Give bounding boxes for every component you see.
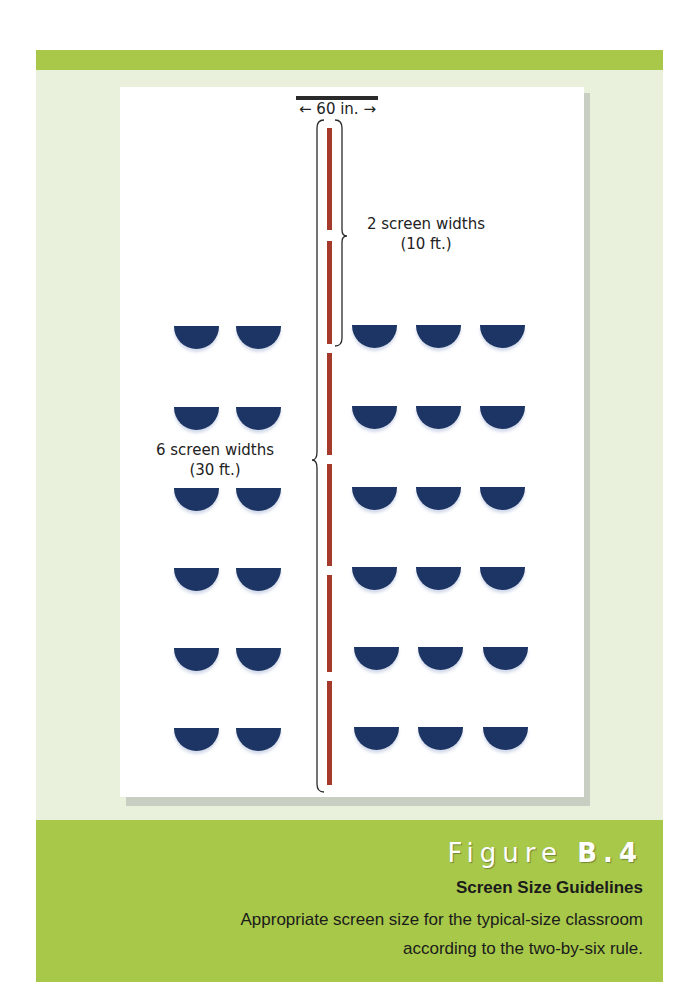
far-bracket — [312, 120, 324, 792]
near-bracket — [335, 120, 347, 346]
figure-number: B.4 — [577, 838, 643, 868]
figure-description: Appropriate screen size for the typical-… — [223, 905, 643, 963]
near-label-line1: 2 screen widths — [356, 214, 496, 234]
far-label-line2: (30 ft.) — [140, 460, 290, 480]
far-label-line1: 6 screen widths — [140, 440, 290, 460]
near-distance-label: 2 screen widths (10 ft.) — [356, 214, 496, 254]
figure-word: Figure — [448, 838, 563, 868]
far-distance-label: 6 screen widths (30 ft.) — [140, 440, 290, 480]
figure-label: Figure B.4 — [448, 838, 643, 868]
figure-title: Screen Size Guidelines — [456, 878, 643, 898]
near-label-line2: (10 ft.) — [356, 234, 496, 254]
